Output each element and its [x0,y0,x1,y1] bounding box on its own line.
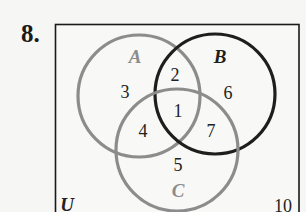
region-b-c-only: 7 [207,121,216,141]
region-a-c-only: 4 [139,121,148,141]
region-b-only: 6 [224,83,233,103]
venn-diagram: A B C 3 2 6 1 4 7 5 U 10 [0,0,306,212]
set-c-label: C [172,180,185,201]
region-outside: 10 [274,196,292,212]
universe-label: U [60,194,75,212]
region-a-b-c: 1 [174,101,183,121]
set-a-label: A [128,46,142,67]
region-a-only: 3 [121,82,130,102]
set-b-label: B [213,46,227,67]
region-c-only: 5 [174,155,183,175]
region-a-b-only: 2 [171,65,180,85]
